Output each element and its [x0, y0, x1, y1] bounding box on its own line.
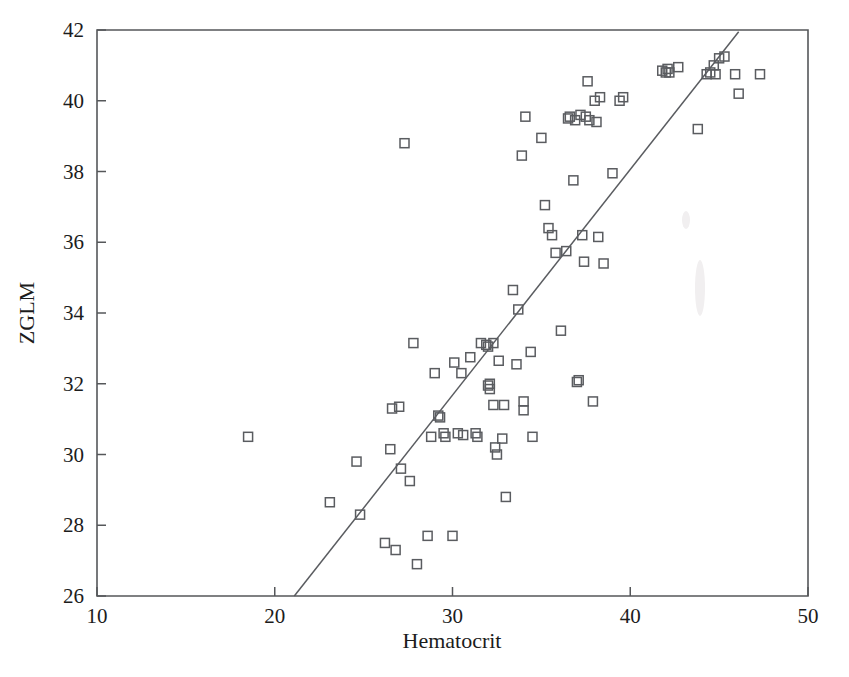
data-point-marker	[448, 531, 457, 540]
y-tick-label: 38	[63, 160, 84, 184]
data-point-marker	[244, 432, 253, 441]
data-point-marker	[427, 432, 436, 441]
x-axis-ticks: 1020304050	[87, 587, 819, 628]
y-axis-ticks: 262830323436384042	[63, 18, 106, 608]
data-point-marker	[489, 400, 498, 409]
x-axis-title: Hematocrit	[403, 628, 502, 653]
data-point-marker	[594, 232, 603, 241]
scan-artifacts	[682, 211, 705, 316]
data-point-marker	[608, 169, 617, 178]
x-tick-label: 10	[87, 604, 108, 628]
data-point-marker	[466, 353, 475, 362]
data-point-marker	[517, 151, 526, 160]
data-point-marker	[405, 477, 414, 486]
scatter-plot-figure: 1020304050 262830323436384042 Hematocrit…	[0, 0, 849, 677]
plot-canvas: 1020304050 262830323436384042 Hematocrit…	[0, 0, 849, 677]
x-tick-label: 20	[264, 604, 285, 628]
data-point-marker	[756, 70, 765, 79]
data-point-marker	[619, 93, 628, 102]
data-point-marker	[540, 201, 549, 210]
data-point-marker	[590, 96, 599, 105]
data-point-marker	[508, 286, 517, 295]
data-point-marker	[556, 326, 565, 335]
y-axis-title: ZGLM	[14, 282, 39, 344]
data-point-marker	[519, 406, 528, 415]
data-point-marker	[521, 112, 530, 121]
data-point-marker	[599, 259, 608, 268]
y-tick-label: 36	[63, 230, 84, 254]
y-tick-label: 30	[63, 443, 84, 467]
data-point-marker	[412, 560, 421, 569]
data-point-marker	[512, 360, 521, 369]
y-tick-label: 42	[63, 18, 84, 42]
data-point-marker	[615, 96, 624, 105]
data-point-marker	[423, 531, 432, 540]
data-point-marker	[583, 77, 592, 86]
data-point-marker	[450, 358, 459, 367]
y-tick-label: 32	[63, 372, 84, 396]
data-point-marker	[569, 176, 578, 185]
data-point-marker	[537, 133, 546, 142]
x-tick-label: 30	[442, 604, 463, 628]
data-point-marker	[500, 400, 509, 409]
y-tick-label: 26	[63, 584, 84, 608]
data-point-marker	[352, 457, 361, 466]
data-point-marker	[734, 89, 743, 98]
data-point-marker	[551, 248, 560, 257]
data-point-marker	[409, 339, 418, 348]
x-tick-label: 40	[620, 604, 641, 628]
data-point-marker	[693, 125, 702, 134]
data-point-marker	[519, 397, 528, 406]
data-point-marker	[526, 347, 535, 356]
data-point-marker	[386, 445, 395, 454]
data-point-marker	[391, 546, 400, 555]
data-point-marker	[325, 498, 334, 507]
data-point-marker	[596, 93, 605, 102]
data-point-marker	[674, 63, 683, 72]
data-point-marker	[400, 139, 409, 148]
data-point-marker	[380, 538, 389, 547]
data-points	[244, 52, 765, 569]
y-tick-label: 34	[63, 301, 85, 325]
data-point-marker	[731, 70, 740, 79]
data-point-marker	[580, 257, 589, 266]
data-point-marker	[498, 434, 507, 443]
data-point-marker	[457, 369, 466, 378]
x-tick-label: 50	[798, 604, 819, 628]
data-point-marker	[528, 432, 537, 441]
data-point-marker	[494, 356, 503, 365]
data-point-marker	[588, 397, 597, 406]
y-tick-label: 40	[63, 89, 84, 113]
data-point-marker	[501, 492, 510, 501]
y-tick-label: 28	[63, 513, 84, 537]
data-point-marker	[430, 369, 439, 378]
